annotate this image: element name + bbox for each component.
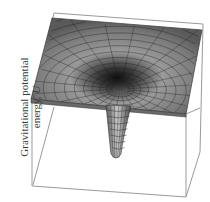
y-axis-label: Gravitational potential energy, U [18, 17, 42, 197]
well-throat [106, 105, 131, 158]
y-axis-label-symbol: U [30, 86, 42, 94]
box-inner-right [186, 108, 200, 114]
box-bottom-right-edge [186, 152, 200, 197]
y-axis-label-line2: energy, U [30, 17, 42, 197]
box-bottom-front-edge [32, 186, 186, 197]
potential-surface [31, 18, 202, 114]
y-axis-label-prefix: energy, [30, 94, 42, 129]
box-right-back-vertical [200, 24, 203, 152]
y-axis-label-line1: Gravitational potential [18, 17, 30, 197]
